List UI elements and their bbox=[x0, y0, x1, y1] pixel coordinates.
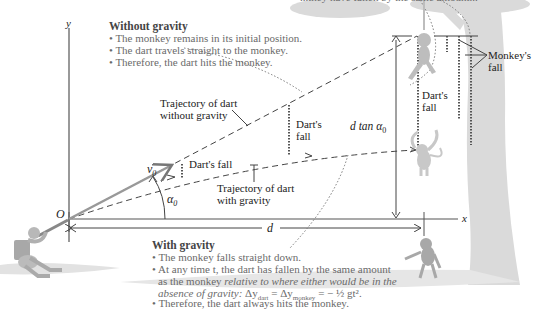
with-gravity-heading: With gravity bbox=[152, 239, 215, 251]
monkey-hanging-illustration bbox=[408, 0, 436, 80]
darts-fall-right-label: fall bbox=[422, 101, 437, 113]
trajectory-with-gravity-label: Trajectory of dart bbox=[217, 182, 294, 194]
darts-fall-mid-label: Dart's bbox=[296, 118, 322, 130]
darts-fall-right-label: Dart's bbox=[422, 89, 448, 101]
with-gravity-bullet-cont: as the monkey relative to where either w… bbox=[158, 275, 397, 287]
trajectory-without-gravity-label: without gravity bbox=[160, 109, 228, 121]
alpha0-label: α0 bbox=[167, 193, 177, 210]
monkeys-fall-label: Monkey's bbox=[488, 49, 531, 61]
with-gravity-bullet: • At any time t, the dart has fallen by … bbox=[152, 263, 391, 275]
with-gravity-bullet: • Therefore, the dart always hits the mo… bbox=[152, 297, 349, 309]
d-label: d bbox=[267, 222, 273, 234]
origin-label: O bbox=[56, 208, 65, 220]
monkey-falling-illustration bbox=[412, 130, 442, 176]
x-axis-label: x bbox=[462, 212, 467, 224]
trajectory-without-gravity-label: Trajectory of dart bbox=[160, 97, 237, 109]
without-gravity-heading: Without gravity bbox=[109, 20, 188, 32]
v0-label: v0 bbox=[147, 163, 156, 180]
without-gravity-bullet: • Therefore, the dart hits the monkey. bbox=[109, 56, 273, 68]
monkeys-fall-label: fall bbox=[488, 61, 503, 73]
with-gravity-bullet: • The monkey falls straight down. bbox=[152, 251, 301, 263]
trajectory-with-gravity-label: with gravity bbox=[217, 194, 270, 206]
without-gravity-bullet: • The dart travels straight to the monke… bbox=[109, 44, 288, 56]
top-clipped-caption: ...they have fallen by the same amount..… bbox=[300, 0, 478, 3]
y-axis-label: y bbox=[66, 17, 71, 29]
darts-fall-mid-label: fall bbox=[296, 130, 311, 142]
d-tan-alpha0-label: d tan α0 bbox=[350, 120, 386, 137]
tree-illustration bbox=[290, 0, 530, 285]
without-gravity-bullet: • The monkey remains in its initial posi… bbox=[109, 32, 302, 44]
darts-fall-small-label: Dart's fall bbox=[189, 158, 232, 170]
